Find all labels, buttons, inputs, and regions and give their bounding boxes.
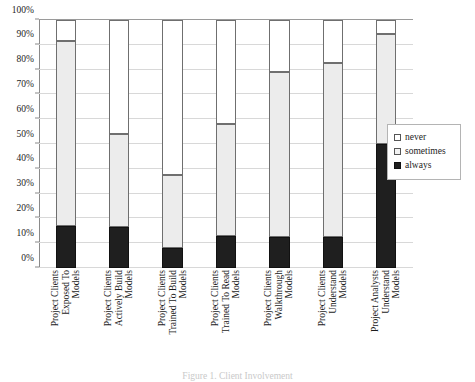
x-axis-label-line: Project Clients: [317, 270, 328, 370]
bar-group[interactable]: [39, 20, 92, 268]
bar-group[interactable]: [253, 20, 306, 268]
x-axis-label-line: Walkthrough: [274, 270, 285, 370]
y-tick-label: 0%: [21, 254, 34, 264]
x-axis-label: Project ClientsActively BuildModels: [103, 270, 135, 370]
bar-segment-always[interactable]: [56, 226, 76, 268]
bar-segment-sometimes[interactable]: [109, 134, 129, 227]
bar-group[interactable]: [92, 20, 145, 268]
legend-label: sometimes: [405, 146, 446, 157]
bar-segment-never[interactable]: [162, 20, 182, 175]
bar-segment-sometimes[interactable]: [323, 63, 343, 237]
legend-swatch-never-icon: [394, 134, 401, 141]
figure-caption: Figure 1. Client Involvement: [0, 371, 475, 382]
legend-swatch-sometimes-icon: [394, 148, 401, 155]
x-axis-label: Project ClientsTrained To ReadModels: [210, 270, 242, 370]
bar-segment-never[interactable]: [109, 20, 129, 134]
y-tick-label: 50%: [17, 130, 34, 140]
y-tick-label: 40%: [17, 155, 34, 165]
x-axis-label-line: Project Analysts: [370, 270, 381, 370]
y-tick-label: 100%: [12, 6, 34, 16]
bar-segment-sometimes[interactable]: [216, 124, 236, 236]
legend-label: never: [405, 132, 426, 143]
bar-group[interactable]: [146, 20, 199, 268]
bar-segment-never[interactable]: [56, 20, 76, 41]
x-axis-label: Project ClientsTrained To BuildModels: [157, 270, 189, 370]
x-axis-label-line: Project Clients: [103, 270, 114, 370]
y-tick-label: 80%: [17, 55, 34, 65]
bar-stack[interactable]: [323, 20, 343, 268]
y-tick-label: 90%: [17, 31, 34, 41]
bar-group[interactable]: [306, 20, 359, 268]
x-axis-label: Project ClientsExposed ToModels: [50, 270, 82, 370]
x-axis-label-line: Project Clients: [210, 270, 221, 370]
bar-stack[interactable]: [56, 20, 76, 268]
bar-segment-sometimes[interactable]: [162, 175, 182, 248]
bar-segment-sometimes[interactable]: [56, 41, 76, 226]
x-axis-label-line: Models: [71, 270, 82, 370]
legend-item-never[interactable]: never: [394, 132, 455, 143]
x-axis-label: Project ClientsWalkthroughModels: [263, 270, 295, 370]
x-axis-label-line: Models: [178, 270, 189, 370]
bar-segment-never[interactable]: [269, 20, 289, 72]
bars-layer: [39, 20, 413, 268]
bar-stack[interactable]: [162, 20, 182, 268]
y-tick-label: 60%: [17, 105, 34, 115]
legend-swatch-always-icon: [394, 162, 401, 169]
bar-stack[interactable]: [216, 20, 236, 268]
x-axis-label-line: Understand: [327, 270, 338, 370]
x-axis-label-line: Project Clients: [157, 270, 168, 370]
x-axis-label-line: Actively Build: [114, 270, 125, 370]
y-tick-label: 30%: [17, 179, 34, 189]
x-axis-label-line: Models: [231, 270, 242, 370]
bar-segment-always[interactable]: [216, 236, 236, 268]
x-axis-label-line: Models: [284, 270, 295, 370]
bar-segment-always[interactable]: [162, 248, 182, 268]
x-axis-label-line: Models: [391, 270, 402, 370]
legend: neversometimesalways: [387, 124, 461, 180]
plot-area: 0%10%20%30%40%50%60%70%80%90%100%: [39, 20, 413, 268]
x-axis-labels: Project ClientsExposed ToModelsProject C…: [39, 270, 413, 376]
legend-item-always[interactable]: always: [394, 160, 455, 171]
x-axis-label-line: Models: [124, 270, 135, 370]
x-axis-label-line: Project Clients: [263, 270, 274, 370]
y-tick-label: 20%: [17, 204, 34, 214]
bar-segment-always[interactable]: [323, 237, 343, 268]
bar-segment-never[interactable]: [216, 20, 236, 124]
legend-label: always: [405, 160, 431, 171]
x-axis-label-line: Trained To Build: [167, 270, 178, 370]
bar-group[interactable]: [199, 20, 252, 268]
bar-stack[interactable]: [109, 20, 129, 268]
x-axis-label-line: Models: [338, 270, 349, 370]
x-axis-label: Project AnalystsUnderstandModels: [370, 270, 402, 370]
x-axis-label-line: Exposed To: [60, 270, 71, 370]
x-axis-label: Project ClientsUnderstandModels: [317, 270, 349, 370]
bar-segment-never[interactable]: [376, 20, 396, 34]
x-axis-label-line: Trained To Read: [221, 270, 232, 370]
y-tick-label: 70%: [17, 80, 34, 90]
bar-stack[interactable]: [269, 20, 289, 268]
bar-segment-always[interactable]: [109, 227, 129, 268]
bar-segment-always[interactable]: [269, 237, 289, 268]
x-axis-label-line: Understand: [381, 270, 392, 370]
x-axis-label-line: Project Clients: [50, 270, 61, 370]
bar-segment-sometimes[interactable]: [269, 72, 289, 237]
bar-segment-never[interactable]: [323, 20, 343, 63]
y-tick-label: 10%: [17, 229, 34, 239]
legend-item-sometimes[interactable]: sometimes: [394, 146, 455, 157]
